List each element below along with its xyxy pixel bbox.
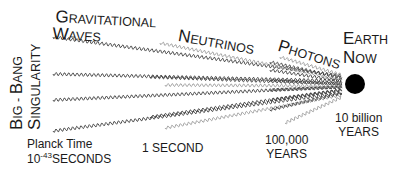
- earth-now-label: EARTH NOW: [343, 30, 388, 66]
- planck-time-label: Planck Time 10-43SECONDS: [27, 138, 111, 165]
- ten-billion-years-label: 10 billion YEARS: [335, 112, 382, 138]
- earth-dot: [345, 74, 365, 94]
- cosmic-messengers-diagram: BIG - BANG SINGULARITY GRAVITATIONAL WAV…: [0, 0, 397, 171]
- hundred-thousand-years-label: 100,000 YEARS: [265, 134, 308, 160]
- gravitational-waves-label-line2: WAVES: [52, 25, 101, 45]
- one-second-label: 1 SECOND: [142, 142, 203, 154]
- big-bang-singularity-label: BIG - BANG SINGULARITY: [8, 44, 43, 130]
- gravitational-wave-line: [53, 92, 342, 133]
